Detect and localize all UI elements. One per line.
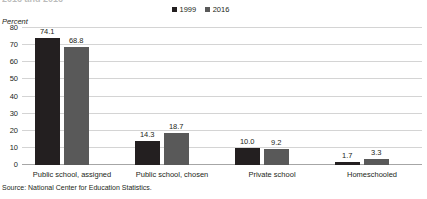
bar-group: 14.318.7Public school, chosen [122,28,222,165]
x-axis-category-label: Private school [248,170,295,179]
y-axis-tick-label: 20 [10,125,18,134]
legend-swatch-1999 [172,7,177,12]
legend-swatch-2016 [205,7,210,12]
bar-value-label: 1.7 [342,151,352,160]
y-axis-tick-label: 0 [14,160,18,169]
bar-groups: 74.168.8Public school, assigned14.318.7P… [22,28,422,165]
y-axis-tick-label: 80 [10,23,18,32]
y-axis-tick-label: 70 [10,40,18,49]
x-axis-category-label: Public school, assigned [33,170,111,179]
y-axis-tick-label: 50 [10,74,18,83]
source-note: Source: National Center for Education St… [2,184,152,191]
chart-title: 2016 and 2016 [2,0,63,4]
bar-value-label: 14.3 [140,130,155,139]
x-axis-category-label: Public school, chosen [136,170,209,179]
chart-legend: 1999 2016 [172,5,229,14]
chart-figure: 2016 and 2016 1999 2016 Percent 80706050… [0,0,427,199]
legend-item-2016: 2016 [205,5,229,14]
bar-value-label: 68.8 [69,36,84,45]
bar-value-label: 3.3 [371,148,381,157]
bar-1999[interactable]: 74.1 [35,38,60,165]
bar-value-label: 10.0 [240,137,255,146]
y-axis-tick-label: 40 [10,91,18,100]
y-axis-tick-label: 10 [10,142,18,151]
legend-label-1999: 1999 [180,5,197,14]
bar-1999[interactable]: 1.7 [335,162,360,165]
bar-2016[interactable]: 3.3 [364,159,389,165]
bar-2016[interactable]: 18.7 [164,133,189,165]
plot-area: 80706050403020100 74.168.8Public school,… [22,28,422,165]
y-axis-tick-label: 60 [10,57,18,66]
bar-2016[interactable]: 68.8 [64,47,89,165]
bar-2016[interactable]: 9.2 [264,149,289,165]
bar-group: 74.168.8Public school, assigned [22,28,122,165]
legend-label-2016: 2016 [213,5,230,14]
bar-1999[interactable]: 10.0 [235,148,260,165]
y-axis-tick-label: 30 [10,108,18,117]
bar-group: 10.09.2Private school [222,28,322,165]
bar-value-label: 18.7 [169,122,184,131]
bar-group: 1.73.3Homeschooled [322,28,422,165]
legend-item-1999: 1999 [172,5,196,14]
bar-value-label: 74.1 [40,27,55,36]
x-axis-category-label: Homeschooled [347,170,397,179]
bar-value-label: 9.2 [271,138,281,147]
bar-1999[interactable]: 14.3 [135,141,160,165]
